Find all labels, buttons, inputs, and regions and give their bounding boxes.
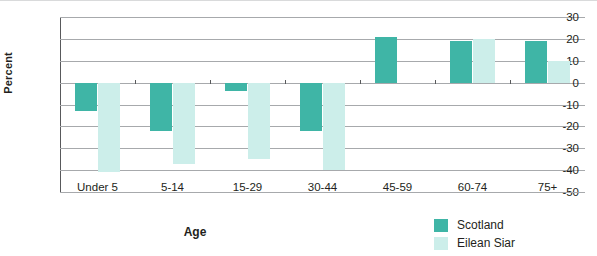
x-axis-tick <box>135 80 136 84</box>
bar <box>300 83 322 131</box>
gridline <box>60 17 585 18</box>
x-axis-title: Age <box>0 225 390 239</box>
x-axis-tick <box>510 80 511 84</box>
bar <box>173 83 195 164</box>
legend: Scotland Eilean Siar <box>434 216 515 252</box>
bar <box>548 61 570 83</box>
y-axis-tick-label: -10 <box>533 99 579 111</box>
y-axis-tick-label: -20 <box>533 120 579 132</box>
bar <box>75 83 97 111</box>
top-rule <box>0 0 597 1</box>
x-axis-tick <box>210 80 211 84</box>
bar-chart: Percent 3020100-10-20-30-40-50 Age Scotl… <box>0 0 597 256</box>
legend-item-eilean-siar: Eilean Siar <box>434 234 515 252</box>
x-axis-tick <box>360 80 361 84</box>
y-axis-tick-label: -40 <box>533 164 579 176</box>
x-axis-category-label: 75+ <box>538 181 558 193</box>
y-axis-title: Percent <box>2 52 18 94</box>
bar <box>450 41 472 83</box>
bar <box>98 83 120 173</box>
x-axis-category-label: 15-29 <box>233 181 262 193</box>
bar <box>473 39 495 83</box>
x-axis-tick <box>435 80 436 84</box>
legend-swatch-icon-scotland <box>434 219 448 232</box>
bar <box>150 83 172 131</box>
gridline <box>60 170 585 171</box>
bar <box>323 83 345 171</box>
bar <box>248 83 270 160</box>
x-axis-category-label: 5-14 <box>161 181 184 193</box>
y-axis-tick-label: -30 <box>533 142 579 154</box>
bar <box>225 83 247 92</box>
legend-label-scotland: Scotland <box>457 218 504 232</box>
plot-area: 3020100-10-20-30-40-50 <box>60 17 585 192</box>
bar <box>525 41 547 83</box>
x-axis-category-label: Under 5 <box>77 181 118 193</box>
legend-swatch-icon-eilean-siar <box>434 237 448 250</box>
x-axis-category-label: 45-59 <box>383 181 412 193</box>
gridline <box>60 39 585 40</box>
y-axis-tick-label: 30 <box>533 11 579 23</box>
x-axis-category-label: 30-44 <box>308 181 337 193</box>
x-axis-category-label: 60-74 <box>458 181 487 193</box>
legend-label-eilean-siar: Eilean Siar <box>457 236 515 250</box>
x-axis-tick <box>285 80 286 84</box>
bar <box>375 37 397 83</box>
gridline <box>60 61 585 62</box>
legend-item-scotland: Scotland <box>434 216 515 234</box>
